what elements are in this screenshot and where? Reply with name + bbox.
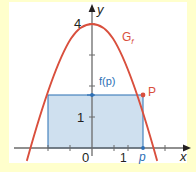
y-tick-label-1: 1 (77, 111, 84, 124)
inscribed-rectangle (48, 95, 143, 148)
curve-label-Gf: Gf (122, 31, 134, 46)
y-value-label-fp: f(p) (99, 76, 116, 87)
x-value-label-p: p (139, 151, 146, 163)
x-axis-label: x (180, 150, 187, 163)
x-tick-label-1: 1 (120, 152, 127, 164)
origin-label: 0 (82, 151, 89, 164)
curve-label-Gf-sub: f (131, 37, 133, 46)
curve-label-Gf-main: G (122, 30, 131, 44)
fp-axis-point (90, 93, 94, 97)
graph-plot-area (0, 0, 196, 172)
y-axis-label: y (97, 3, 104, 16)
figure-canvas: y x 4 1 0 1 p f(p) P Gf (0, 0, 196, 172)
point-label-P: P (148, 86, 156, 98)
y-tick-label-4: 4 (74, 17, 81, 30)
point-P-marker (141, 93, 146, 98)
